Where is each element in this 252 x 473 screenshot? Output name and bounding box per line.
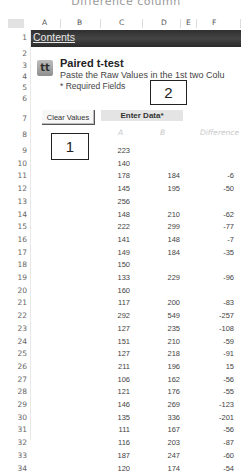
value-cell-b[interactable]: 167: [150, 425, 180, 434]
difference-cell[interactable]: -201: [204, 413, 234, 422]
difference-cell[interactable]: -77: [204, 222, 234, 231]
column-header-c[interactable]: C: [119, 18, 124, 27]
difference-cell[interactable]: -108: [204, 324, 234, 333]
value-cell-b[interactable]: 218: [150, 349, 180, 358]
difference-cell[interactable]: -56: [204, 375, 234, 384]
row-header[interactable]: 6: [7, 94, 27, 103]
row-header[interactable]: 3: [7, 61, 27, 70]
difference-cell[interactable]: -54: [204, 464, 234, 473]
value-cell-a[interactable]: 127: [100, 349, 130, 358]
difference-cell[interactable]: -55: [204, 387, 234, 396]
value-cell-b[interactable]: 184: [150, 248, 180, 257]
difference-cell[interactable]: -83: [204, 298, 234, 307]
row-header[interactable]: 5: [7, 83, 27, 92]
row-header[interactable]: 14: [7, 210, 27, 219]
value-cell-a[interactable]: 145: [100, 184, 130, 193]
difference-cell[interactable]: -96: [204, 273, 234, 282]
row-header[interactable]: 34: [7, 464, 27, 473]
value-cell-a[interactable]: 116: [100, 438, 130, 447]
value-cell-a[interactable]: 160: [100, 286, 130, 295]
value-cell-b[interactable]: 210: [150, 210, 180, 219]
value-cell-b[interactable]: 235: [150, 324, 180, 333]
value-cell-b[interactable]: 184: [150, 171, 180, 180]
value-cell-a[interactable]: 135: [100, 413, 130, 422]
value-cell-b[interactable]: 549: [150, 311, 180, 320]
difference-cell[interactable]: -91: [204, 349, 234, 358]
value-cell-a[interactable]: 223: [100, 146, 130, 155]
clear-values-button[interactable]: Clear Values: [42, 110, 95, 125]
value-cell-b[interactable]: 210: [150, 337, 180, 346]
difference-cell[interactable]: -7: [204, 235, 234, 244]
value-cell-a[interactable]: 256: [100, 197, 130, 206]
row-header[interactable]: 22: [7, 311, 27, 320]
difference-cell[interactable]: 15: [204, 362, 234, 371]
value-cell-a[interactable]: 187: [100, 451, 130, 460]
row-header[interactable]: 32: [7, 438, 27, 447]
column-header-d[interactable]: D: [161, 18, 167, 27]
difference-cell[interactable]: -35: [204, 248, 234, 257]
value-cell-a[interactable]: 149: [100, 248, 130, 257]
value-cell-b[interactable]: 148: [150, 235, 180, 244]
column-header-b[interactable]: B: [77, 18, 82, 27]
value-cell-b[interactable]: 269: [150, 400, 180, 409]
value-cell-b[interactable]: 195: [150, 184, 180, 193]
difference-cell[interactable]: -50: [204, 184, 234, 193]
row-header[interactable]: 15: [7, 222, 27, 231]
row-header[interactable]: 29: [7, 400, 27, 409]
contents-link[interactable]: Contents: [33, 31, 75, 43]
difference-cell[interactable]: -59: [204, 337, 234, 346]
row-header[interactable]: 31: [7, 425, 27, 434]
value-cell-a[interactable]: 150: [100, 260, 130, 269]
row-header[interactable]: 13: [7, 197, 27, 206]
value-cell-b[interactable]: 299: [150, 222, 180, 231]
value-cell-a[interactable]: 121: [100, 387, 130, 396]
row-header[interactable]: 33: [7, 451, 27, 460]
value-cell-a[interactable]: 222: [100, 222, 130, 231]
row-header[interactable]: 21: [7, 298, 27, 307]
column-header-a[interactable]: A: [42, 18, 47, 27]
difference-cell[interactable]: -56: [204, 425, 234, 434]
value-cell-a[interactable]: 117: [100, 298, 130, 307]
value-cell-a[interactable]: 178: [100, 171, 130, 180]
value-cell-a[interactable]: 148: [100, 210, 130, 219]
difference-cell[interactable]: -257: [204, 311, 234, 320]
difference-cell[interactable]: -123: [204, 400, 234, 409]
value-cell-a[interactable]: 133: [100, 273, 130, 282]
difference-cell[interactable]: -60: [204, 451, 234, 460]
value-cell-b[interactable]: 200: [150, 298, 180, 307]
row-header[interactable]: 18: [7, 260, 27, 269]
row-header[interactable]: 11: [7, 171, 27, 180]
row-header[interactable]: 4: [7, 72, 27, 81]
row-header[interactable]: 19: [7, 273, 27, 282]
value-cell-a[interactable]: 111: [100, 425, 130, 434]
row-header[interactable]: 9: [7, 146, 27, 155]
value-cell-b[interactable]: 229: [150, 273, 180, 282]
value-cell-b[interactable]: 203: [150, 438, 180, 447]
column-header-e[interactable]: E: [186, 18, 191, 27]
value-cell-b[interactable]: 162: [150, 375, 180, 384]
value-cell-a[interactable]: 127: [100, 324, 130, 333]
difference-cell[interactable]: -87: [204, 438, 234, 447]
value-cell-a[interactable]: 292: [100, 311, 130, 320]
difference-cell[interactable]: -6: [204, 171, 234, 180]
row-header[interactable]: 26: [7, 362, 27, 371]
row-header[interactable]: 16: [7, 235, 27, 244]
row-header[interactable]: 25: [7, 349, 27, 358]
column-header-f[interactable]: F: [212, 18, 216, 27]
row-header[interactable]: 8: [7, 130, 27, 139]
value-cell-a[interactable]: 120: [100, 464, 130, 473]
difference-cell[interactable]: -62: [204, 210, 234, 219]
row-header[interactable]: 17: [7, 248, 27, 257]
row-header[interactable]: 10: [7, 159, 27, 168]
value-cell-b[interactable]: 174: [150, 464, 180, 473]
value-cell-b[interactable]: 336: [150, 413, 180, 422]
select-all-corner[interactable]: [8, 19, 24, 28]
row-header[interactable]: 27: [7, 375, 27, 384]
row-header[interactable]: 20: [7, 286, 27, 295]
value-cell-b[interactable]: 176: [150, 387, 180, 396]
value-cell-a[interactable]: 211: [100, 362, 130, 371]
value-cell-a[interactable]: 146: [100, 400, 130, 409]
row-header[interactable]: 12: [7, 184, 27, 193]
value-cell-a[interactable]: 141: [100, 235, 130, 244]
row-header[interactable]: 2: [7, 49, 27, 58]
